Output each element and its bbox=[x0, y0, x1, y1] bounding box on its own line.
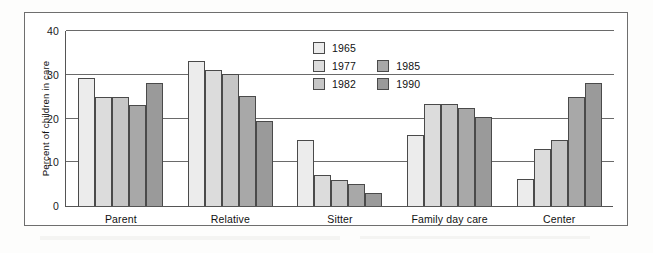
legend-label-1965: 1965 bbox=[332, 42, 356, 54]
legend-label-1985: 1985 bbox=[396, 60, 420, 72]
legend-spacer bbox=[377, 41, 420, 55]
legend-swatch-1990 bbox=[377, 78, 389, 90]
legend-column-two: 19851990 bbox=[377, 41, 420, 91]
x-tick-label-relative: Relative bbox=[211, 213, 250, 225]
bar-1977[interactable] bbox=[205, 70, 222, 206]
legend-swatch-1985 bbox=[377, 60, 389, 72]
bar-1965[interactable] bbox=[297, 140, 314, 207]
legend-swatch-1965 bbox=[313, 42, 325, 54]
bar-group-parent: Parent bbox=[66, 31, 176, 206]
bar-1985[interactable] bbox=[348, 184, 365, 206]
y-tick-label-30: 30 bbox=[47, 69, 59, 81]
x-tick-label-parent: Parent bbox=[105, 213, 137, 225]
x-tick-label-family-day-care: Family day care bbox=[411, 213, 487, 225]
bar-1990[interactable] bbox=[475, 117, 492, 206]
x-tick-label-center: Center bbox=[543, 213, 575, 225]
bar-1982[interactable] bbox=[441, 104, 458, 206]
legend-label-1990: 1990 bbox=[396, 78, 420, 90]
legend-item-1982[interactable]: 1982 bbox=[313, 77, 356, 91]
bar-group-center: Center bbox=[504, 31, 614, 206]
bar-1977[interactable] bbox=[534, 149, 551, 206]
bar-1977[interactable] bbox=[314, 175, 331, 206]
bars bbox=[517, 31, 602, 206]
bar-1985[interactable] bbox=[239, 96, 256, 206]
scan-smudge bbox=[360, 236, 590, 239]
bar-1990[interactable] bbox=[365, 193, 382, 206]
y-tick-label-0: 0 bbox=[53, 200, 59, 212]
y-tick-label-20: 20 bbox=[47, 113, 59, 125]
bar-1982[interactable] bbox=[222, 74, 239, 206]
bar-1982[interactable] bbox=[112, 97, 129, 206]
chart-legend: 196519771982 19851990 bbox=[313, 41, 420, 91]
bar-1965[interactable] bbox=[407, 135, 424, 206]
bar-1990[interactable] bbox=[585, 83, 602, 206]
bar-1965[interactable] bbox=[517, 179, 534, 206]
bar-1977[interactable] bbox=[424, 104, 441, 206]
bar-1977[interactable] bbox=[95, 97, 112, 206]
scan-smudge bbox=[40, 236, 340, 240]
legend-item-1985[interactable]: 1985 bbox=[377, 59, 420, 73]
bar-1965[interactable] bbox=[78, 78, 95, 206]
legend-item-1977[interactable]: 1977 bbox=[313, 59, 356, 73]
bar-1985[interactable] bbox=[458, 108, 475, 206]
x-tick-label-sitter: Sitter bbox=[327, 213, 352, 225]
legend-item-1990[interactable]: 1990 bbox=[377, 77, 420, 91]
bar-group-relative: Relative bbox=[176, 31, 286, 206]
legend-column-one: 196519771982 bbox=[313, 41, 356, 91]
bars bbox=[78, 31, 163, 206]
legend-label-1977: 1977 bbox=[332, 60, 356, 72]
y-tick-label-40: 40 bbox=[47, 25, 59, 37]
bar-1990[interactable] bbox=[146, 83, 163, 206]
bar-1990[interactable] bbox=[256, 121, 273, 206]
legend-swatch-1977 bbox=[313, 60, 325, 72]
y-tick-label-10: 10 bbox=[47, 156, 59, 168]
bar-1985[interactable] bbox=[129, 105, 146, 206]
bar-1982[interactable] bbox=[331, 180, 348, 206]
bar-1982[interactable] bbox=[551, 140, 568, 207]
bar-1985[interactable] bbox=[568, 97, 585, 206]
bars bbox=[188, 31, 273, 206]
legend-label-1982: 1982 bbox=[332, 78, 356, 90]
bar-1965[interactable] bbox=[188, 61, 205, 206]
legend-item-1965[interactable]: 1965 bbox=[313, 41, 356, 55]
legend-swatch-1982 bbox=[313, 78, 325, 90]
